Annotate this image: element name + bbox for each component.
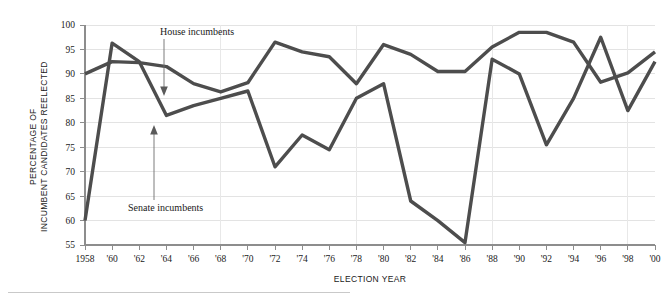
x-tick-label: '72	[269, 254, 280, 264]
x-tick-label: '78	[351, 254, 362, 264]
y-tick-label: 60	[66, 216, 76, 226]
y-tick-label: 80	[66, 118, 76, 128]
x-tick-label: '94	[568, 254, 579, 264]
x-tick-label: '74	[297, 254, 308, 264]
x-tick-label: '82	[405, 254, 416, 264]
y-tick-label: 55	[66, 240, 76, 250]
x-tick-label: '70	[242, 254, 253, 264]
x-axis-title: ELECTION YEAR	[334, 274, 406, 284]
x-tick-label: '96	[595, 254, 606, 264]
x-tick-label: '84	[432, 254, 443, 264]
y-tick-label: 100	[61, 20, 76, 30]
x-tick-label: '76	[324, 254, 335, 264]
y-tick-label: 75	[66, 143, 76, 153]
house-incumbents-annotation-label: House incumbents	[160, 26, 234, 37]
x-tick-label: '92	[541, 254, 552, 264]
y-axis-title-line2: INCUMBENT CANDIDATES REELECTED	[39, 61, 49, 232]
y-tick-label: 65	[66, 192, 76, 202]
incumbent-reelection-line-chart: 100 95 90 85 80 75 70 65 60 55 PERCENTAG…	[0, 0, 669, 298]
x-tick-label: '00	[649, 254, 660, 264]
x-tick-label: '68	[215, 254, 226, 264]
x-tick-label: '86	[459, 254, 470, 264]
x-tick-label: 1958	[76, 254, 95, 264]
y-tick-label: 90	[66, 69, 76, 79]
y-tick-label: 95	[66, 45, 76, 55]
x-tick-label: '60	[107, 254, 118, 264]
x-tick-label: '88	[487, 254, 498, 264]
y-tick-label: 85	[66, 94, 76, 104]
senate-incumbents-annotation-label: Senate incumbents	[128, 202, 203, 213]
x-tick-label: '98	[622, 254, 633, 264]
x-tick-label: '90	[514, 254, 525, 264]
x-tick-label: '66	[188, 254, 199, 264]
y-tick-label: 70	[66, 167, 76, 177]
y-axis-title-line1: PERCENTAGE OF	[28, 108, 38, 185]
x-tick-label: '80	[378, 254, 389, 264]
x-tick-label: '62	[134, 254, 145, 264]
x-tick-label: '64	[161, 254, 172, 264]
